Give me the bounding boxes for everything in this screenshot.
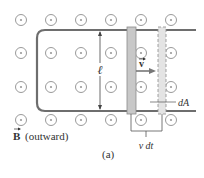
- displacement-label: v dt: [139, 140, 154, 151]
- rod-later-position: [158, 27, 166, 114]
- field-dot-center: [110, 19, 112, 21]
- area-label: dA: [178, 97, 190, 108]
- field-dot-center: [110, 86, 112, 88]
- field-dot-center: [20, 86, 22, 88]
- field-dot-center: [140, 52, 142, 54]
- field-dot-center: [80, 119, 82, 121]
- field-dot-center: [170, 52, 172, 54]
- field-dot-center: [140, 86, 142, 88]
- field-dot-center: [20, 119, 22, 121]
- field-dot-center: [50, 86, 52, 88]
- field-dot-center: [50, 19, 52, 21]
- field-dot-center: [50, 119, 52, 121]
- area-element-annotation: dA: [150, 97, 190, 108]
- velocity-arrow: v: [136, 58, 156, 75]
- field-dot-center: [170, 86, 172, 88]
- field-direction-text: (outward): [25, 130, 69, 143]
- field-dot-center: [110, 119, 112, 121]
- conducting-rail: [37, 30, 196, 111]
- field-label: B (outward): [13, 128, 69, 144]
- field-dot-center: [170, 19, 172, 21]
- panel-label: (a): [102, 148, 115, 161]
- length-dimension: ℓ: [95, 31, 105, 110]
- field-dot-center: [80, 86, 82, 88]
- field-symbol: B: [13, 130, 21, 142]
- field-dot-center: [20, 52, 22, 54]
- field-dot-center: [20, 19, 22, 21]
- field-dot-center: [110, 52, 112, 54]
- length-label: ℓ: [98, 63, 103, 77]
- field-dot-center: [170, 119, 172, 121]
- field-dot-center: [140, 19, 142, 21]
- field-dot-center: [50, 52, 52, 54]
- field-dot-center: [80, 19, 82, 21]
- field-dot-center: [80, 52, 82, 54]
- field-dot-center: [140, 119, 142, 121]
- moving-rod: [127, 27, 136, 114]
- moving-rod-diagram: ℓ v dA v dt B (outward) (a): [0, 0, 204, 178]
